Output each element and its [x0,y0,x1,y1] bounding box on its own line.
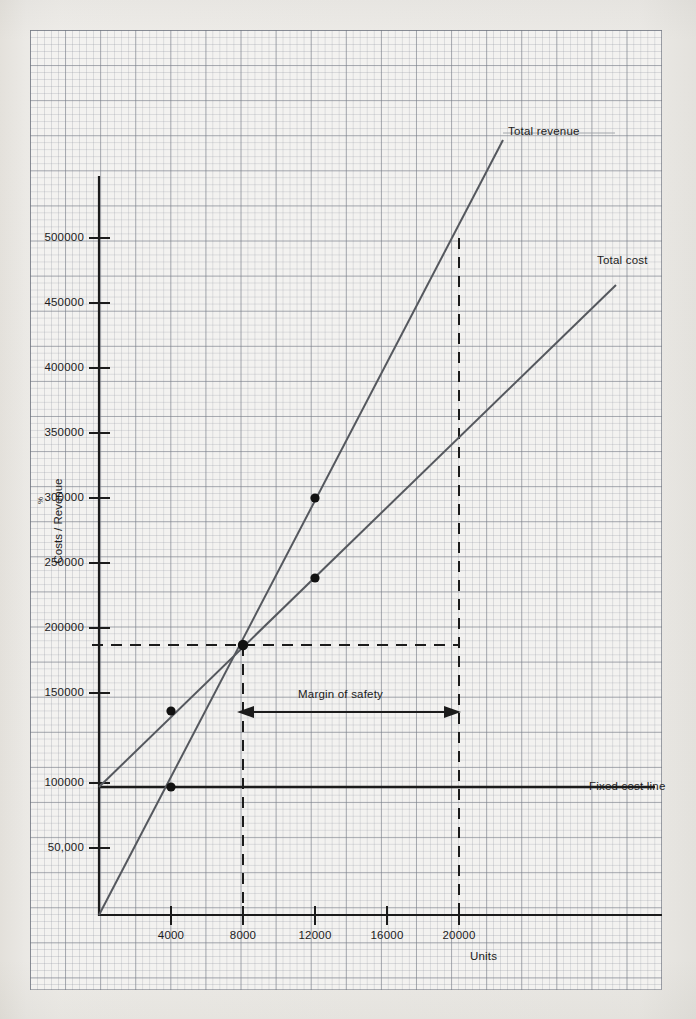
marker-revenue-12000 [310,493,319,502]
x-axis-title: Units [470,950,497,962]
x-tick-label-16000: 16000 [352,929,422,941]
y-axis-title-wrap: Costs / Revenue [48,470,64,580]
x-tick-label-20000: 20000 [424,929,494,941]
total-revenue-line [99,140,503,915]
y-tick-label-350000: 350000 [0,426,84,438]
y-tick-label-150000: 150000 [0,686,84,698]
y-axis-title: Costs / Revenue [52,466,64,576]
y-tick-label-500000: 500000 [0,231,84,243]
y-tick-label-100000: 100000 [0,776,84,788]
break-even-chart-plot [0,0,696,1019]
marker-revenue-4000 [166,782,175,791]
marker-cost-12000 [310,573,319,582]
marker-cost-4000 [166,706,175,715]
margin-of-safety-label: Margin of safety [298,688,383,700]
y-tick-label-200000: 200000 [0,621,84,633]
margin-of-safety-arrow [237,706,461,718]
y-axis-unit-wrap: % [34,492,46,512]
total-revenue-label: Total revenue [508,125,580,137]
y-tick-label-400000: 400000 [0,361,84,373]
y-tick-label-250000: 250000 [0,556,84,568]
y-tick-label-450000: 450000 [0,296,84,308]
y-axis-unit-percent: % [36,487,45,515]
x-tick-label-12000: 12000 [280,929,350,941]
y-tick-label-50000: 50,000 [0,841,84,853]
fixed-cost-line-label: Fixed cost line [589,780,666,792]
total-cost-label: Total cost [597,254,648,266]
x-tick-label-4000: 4000 [136,929,206,941]
marker-breakeven-8000 [238,640,248,650]
x-tick-label-8000: 8000 [208,929,278,941]
graph-paper-page: 500000 450000 400000 350000 300000 25000… [0,0,696,1019]
